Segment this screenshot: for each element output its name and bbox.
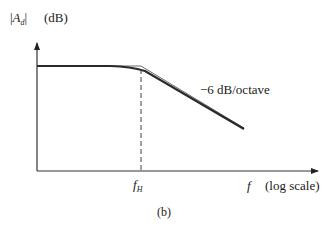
x-axis-symbol: f	[247, 179, 251, 192]
y-axis-label: |Ad|	[10, 11, 27, 27]
corner-frequency-label: fH	[133, 178, 142, 194]
x-axis-scale-note: (log scale)	[265, 179, 320, 192]
figure-label: (b)	[157, 206, 171, 218]
y-axis-unit: (dB)	[44, 11, 68, 24]
slope-annotation: −6 dB/octave	[200, 83, 270, 96]
